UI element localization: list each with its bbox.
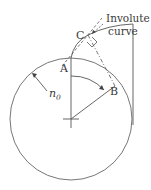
label-c: C — [76, 29, 84, 42]
label-n0: n0 — [49, 87, 61, 102]
involute-diagram: A B C Involute curve n0 — [0, 0, 151, 190]
radius-symbol: n — [49, 87, 56, 100]
rotation-arc — [71, 76, 104, 90]
n0-arrow-line — [33, 74, 47, 91]
label-curve: curve — [108, 25, 138, 37]
right-angle-marker — [87, 37, 97, 47]
radius-line-b — [71, 86, 115, 119]
leader-arrowhead-icon — [92, 30, 96, 34]
label-involute: Involute — [106, 12, 150, 24]
label-a: A — [59, 62, 69, 75]
dashdot-line-cb — [88, 35, 115, 86]
label-b: B — [110, 85, 118, 98]
radius-subscript: 0 — [56, 93, 61, 102]
